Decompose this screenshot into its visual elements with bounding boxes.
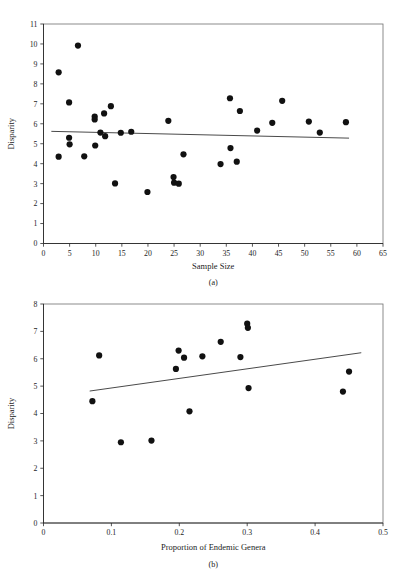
data-point: [186, 408, 192, 414]
scatter-plot-b: 00.10.20.30.40.5012345678DisparityPropor…: [0, 290, 402, 585]
data-point: [176, 347, 182, 353]
y-tick-label: 7: [34, 100, 38, 109]
panel-caption: (a): [209, 278, 218, 287]
x-tick-label: 60: [353, 249, 361, 258]
data-point: [118, 439, 124, 445]
data-point: [112, 180, 118, 186]
data-point: [306, 118, 312, 124]
data-point: [108, 103, 114, 109]
x-tick-label: 0.2: [174, 528, 184, 537]
y-tick-label: 8: [34, 80, 38, 89]
regression-trend-line: [90, 353, 362, 391]
data-point: [218, 339, 224, 345]
x-tick-label: 0: [42, 528, 46, 537]
y-tick-label: 5: [34, 140, 38, 149]
x-tick-label: 10: [92, 249, 100, 258]
data-point: [237, 354, 243, 360]
x-tick-label: 45: [275, 249, 283, 258]
data-point: [89, 398, 95, 404]
y-tick-label: 1: [34, 219, 38, 228]
data-point: [340, 389, 346, 395]
x-tick-label: 0: [42, 249, 46, 258]
panel-caption: (b): [208, 560, 218, 569]
data-point: [346, 369, 352, 375]
x-tick-label: 0.5: [378, 528, 388, 537]
data-point: [66, 99, 72, 105]
x-tick-label: 50: [301, 249, 309, 258]
data-point: [102, 133, 108, 139]
data-point: [144, 189, 150, 195]
x-tick-label: 15: [118, 249, 126, 258]
x-tick-label: 0.1: [107, 528, 117, 537]
data-point: [317, 129, 323, 135]
x-tick-label: 5: [68, 249, 72, 258]
x-tick-label: 30: [196, 249, 204, 258]
y-tick-label: 5: [34, 382, 38, 391]
x-tick-label: 20: [144, 249, 152, 258]
x-tick-label: 0.3: [242, 528, 252, 537]
data-point: [343, 119, 349, 125]
y-tick-label: 2: [34, 464, 38, 473]
data-point: [180, 151, 186, 157]
y-tick-label: 4: [34, 409, 38, 418]
data-point: [254, 127, 260, 133]
data-point: [245, 325, 251, 331]
data-point: [217, 161, 223, 167]
scatter-plot-a: 0510152025303540455055606501234567891011…: [0, 0, 402, 290]
y-tick-label: 1: [34, 492, 38, 501]
y-tick-label: 6: [34, 355, 38, 364]
data-point: [176, 181, 182, 187]
data-point: [279, 98, 285, 104]
y-tick-label: 2: [34, 199, 38, 208]
y-axis-title: Disparity: [6, 117, 16, 149]
data-point: [227, 95, 233, 101]
data-point: [170, 174, 176, 180]
data-point: [245, 385, 251, 391]
data-point: [101, 110, 107, 116]
data-point: [237, 108, 243, 114]
data-point: [181, 355, 187, 361]
data-point: [66, 135, 72, 141]
y-tick-label: 10: [30, 40, 38, 49]
data-point: [173, 366, 179, 372]
data-point: [81, 153, 87, 159]
plot-frame: [44, 304, 384, 523]
data-point: [56, 154, 62, 160]
data-point: [148, 438, 154, 444]
plot-frame: [44, 24, 384, 244]
x-tick-label: 65: [379, 249, 387, 258]
data-point: [56, 69, 62, 75]
data-point: [227, 145, 233, 151]
y-tick-label: 9: [34, 60, 38, 69]
y-tick-label: 8: [34, 300, 38, 309]
figure-panel-b: 00.10.20.30.40.5012345678DisparityPropor…: [0, 290, 402, 585]
data-point: [92, 116, 98, 122]
x-tick-label: 40: [249, 249, 257, 258]
y-tick-label: 7: [34, 327, 38, 336]
y-tick-label: 0: [34, 239, 38, 248]
x-tick-label: 35: [222, 249, 230, 258]
y-tick-label: 6: [34, 120, 38, 129]
x-tick-label: 0.4: [310, 528, 320, 537]
data-point: [67, 141, 73, 147]
data-point: [75, 42, 81, 48]
x-tick-label: 55: [327, 249, 335, 258]
y-tick-label: 3: [34, 437, 38, 446]
data-point: [92, 142, 98, 148]
data-point: [199, 353, 205, 359]
y-tick-label: 4: [34, 160, 38, 169]
y-tick-label: 0: [34, 519, 38, 528]
figure-panel-a: 0510152025303540455055606501234567891011…: [0, 0, 402, 290]
data-point: [269, 120, 275, 126]
y-tick-label: 3: [34, 180, 38, 189]
data-point: [118, 130, 124, 136]
data-point: [128, 129, 134, 135]
x-tick-label: 25: [170, 249, 178, 258]
data-point: [234, 159, 240, 165]
data-point: [165, 118, 171, 124]
data-point: [96, 352, 102, 358]
y-axis-title: Disparity: [6, 397, 16, 429]
x-axis-title: Sample Size: [192, 261, 234, 271]
regression-trend-line: [51, 131, 349, 138]
x-axis-title: Proportion of Endemic Genera: [161, 542, 266, 552]
